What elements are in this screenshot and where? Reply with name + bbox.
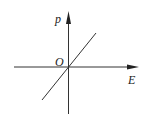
- e-axis-arrow-icon: [127, 65, 139, 70]
- e-axis-label: E: [127, 73, 136, 87]
- p-e-graph: p O E: [0, 0, 148, 125]
- p-axis-label: p: [54, 12, 61, 26]
- origin-label: O: [55, 55, 64, 69]
- p-axis-arrow-icon: [66, 11, 71, 24]
- diagram-canvas: p O E: [0, 0, 148, 125]
